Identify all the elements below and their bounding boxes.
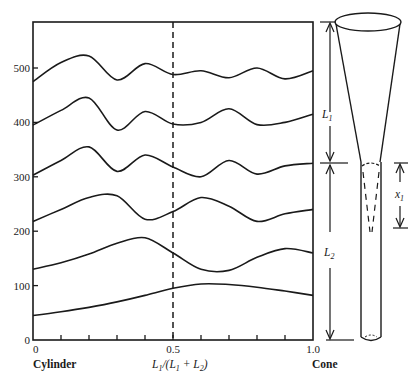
cylinder-tube — [361, 162, 381, 341]
label-x1: x1 — [394, 188, 404, 203]
x-tick-label: 0 — [33, 343, 39, 355]
y-axis: 0100200300400500 — [14, 62, 39, 346]
y-tick-label: 300 — [14, 171, 31, 183]
x-tick-label: 0.5 — [166, 343, 180, 355]
figure: 0100200300400500 00.51.0 Cylinder Cone L… — [0, 0, 420, 382]
tube-bottom — [361, 337, 381, 341]
x-left-label: Cylinder — [33, 358, 76, 371]
cone-junction-dashed — [362, 163, 380, 166]
dimension-L2: L2 — [323, 165, 354, 340]
plot-area: 0100200300400500 00.51.0 Cylinder Cone L… — [14, 22, 338, 373]
y-tick-label: 200 — [14, 225, 31, 237]
y-tick-label: 0 — [25, 334, 31, 346]
cone — [335, 13, 401, 166]
cone-right-edge — [380, 24, 400, 162]
x-axis-title: L1/(L1 + L2) — [151, 358, 208, 373]
instrument-schematic: L1 L2 x1 — [320, 13, 408, 341]
x-tick-label: 1.0 — [306, 343, 320, 355]
y-tick-label: 500 — [14, 62, 31, 74]
x-right-label: Cone — [312, 358, 338, 370]
y-tick-label: 400 — [14, 116, 31, 128]
cone-left-edge — [336, 24, 361, 162]
dimension-x1: x1 — [393, 163, 408, 228]
x-axis: 00.51.0 — [33, 335, 320, 355]
inner-taper-right — [372, 172, 379, 232]
tube-bottom-dashed — [365, 335, 377, 337]
inner-taper-left — [363, 172, 370, 232]
cone-mouth — [335, 13, 401, 31]
y-tick-label: 100 — [14, 280, 31, 292]
label-L1: L1 — [321, 108, 332, 123]
dimension-L1: L1 — [320, 22, 336, 161]
curve-mode-1 — [33, 284, 313, 316]
label-L2: L2 — [323, 246, 334, 261]
